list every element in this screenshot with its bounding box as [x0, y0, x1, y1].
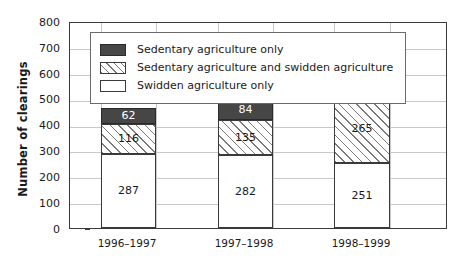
- bar-value-label: 84: [239, 104, 253, 115]
- y-tickmark-0: [85, 229, 90, 230]
- bar-segment-swidden[interactable]: 287: [101, 154, 156, 228]
- y-tick-label-300: 300: [22, 146, 60, 157]
- y-tick-label-800: 800: [22, 17, 60, 28]
- bar-segment-mixed[interactable]: 265: [334, 95, 390, 164]
- y-tick-label-100: 100: [22, 198, 60, 209]
- legend-label-sedentary: Sedentary agriculture only: [137, 44, 284, 56]
- bar-value-label: 135: [235, 132, 256, 143]
- y-tick-label-400: 400: [22, 120, 60, 131]
- bar-segment-sedentary[interactable]: 62: [101, 108, 156, 124]
- x-tick-label-1998-1999: 1998–1999: [301, 237, 421, 249]
- bar-value-label: 251: [352, 190, 373, 201]
- legend-item-sedentary[interactable]: Sedentary agriculture only: [100, 41, 393, 59]
- legend: Sedentary agriculture only Sedentary agr…: [90, 32, 406, 104]
- x-tick-label-1997-1998: 1997–1998: [184, 237, 304, 249]
- stacked-bar-chart: Number of clearings 800 700 600 500 400 …: [0, 0, 458, 271]
- y-tick-label-0: 0: [22, 224, 60, 235]
- bar-segment-mixed[interactable]: 116: [101, 124, 156, 154]
- legend-item-swidden[interactable]: Swidden agriculture only: [100, 77, 393, 95]
- x-tick-label-1996-1997: 1996–1997: [67, 237, 187, 249]
- x-axis-tick-labels: 1996–1997 1997–1998 1998–1999: [69, 237, 447, 257]
- y-tick-label-200: 200: [22, 172, 60, 183]
- legend-item-mixed[interactable]: Sedentary agriculture and swidden agricu…: [100, 59, 393, 77]
- bar-value-label: 287: [118, 185, 139, 196]
- bar-1996-1997[interactable]: 287 116 62: [101, 108, 156, 228]
- y-tick-label-600: 600: [22, 69, 60, 80]
- legend-swatch-sedentary-icon: [100, 44, 126, 56]
- bar-segment-swidden[interactable]: 282: [218, 155, 273, 228]
- y-tick-label-700: 700: [22, 43, 60, 54]
- bar-1997-1998[interactable]: 282 135 84: [218, 99, 273, 228]
- y-tick-label-500: 500: [22, 94, 60, 105]
- plot-area: 287 116 62 282 135 84 251: [69, 22, 447, 229]
- bar-value-label: 265: [352, 123, 373, 134]
- legend-swatch-swidden-icon: [100, 80, 126, 92]
- bar-value-label: 62: [122, 110, 136, 121]
- bar-value-label: 116: [118, 133, 139, 144]
- bar-value-label: 282: [235, 186, 256, 197]
- bar-segment-swidden[interactable]: 251: [334, 163, 390, 228]
- legend-swatch-mixed-icon: [100, 62, 126, 74]
- y-axis-tick-labels: 800 700 600 500 400 300 200 100 0: [22, 0, 60, 271]
- legend-label-swidden: Swidden agriculture only: [137, 80, 274, 92]
- bar-segment-mixed[interactable]: 135: [218, 120, 273, 155]
- legend-label-mixed: Sedentary agriculture and swidden agricu…: [137, 62, 393, 74]
